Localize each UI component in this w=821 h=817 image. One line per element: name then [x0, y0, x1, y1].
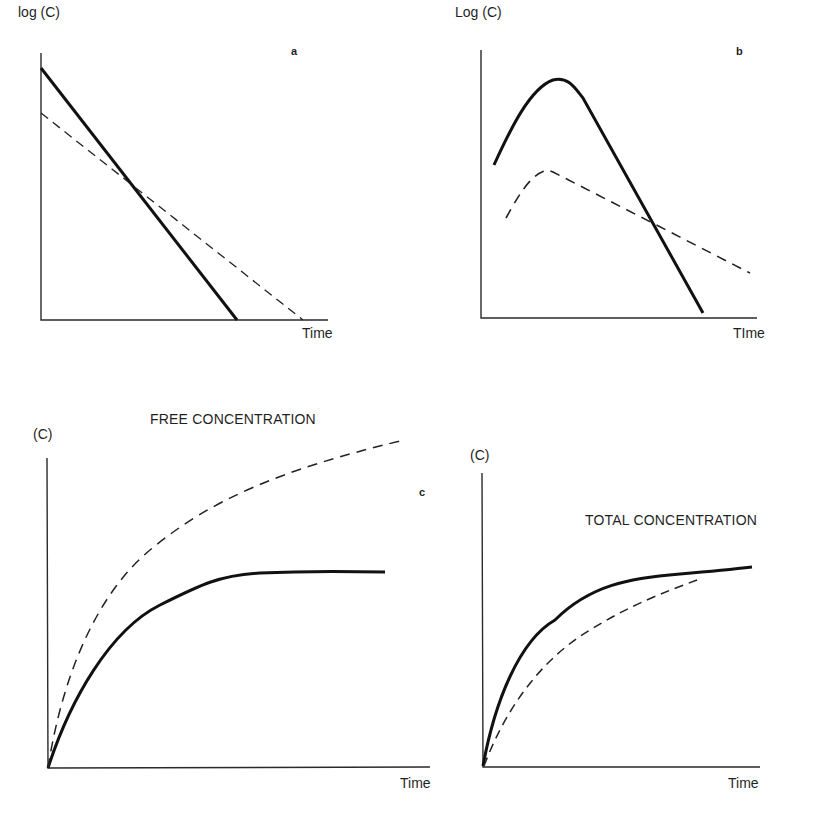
panel-d-xlabel: Time: [728, 776, 759, 790]
panel-b-ylabel: Log (C): [455, 5, 502, 19]
panel-b-axes: [481, 50, 757, 318]
panel-c-letter: c: [419, 487, 425, 498]
panel-c-xlabel: Time: [400, 776, 431, 790]
panel-d-title: TOTAL CONCENTRATION: [585, 513, 757, 527]
panel-a-solid-line: [41, 68, 237, 320]
panel-a-axes: [41, 53, 328, 320]
panel-b: [481, 50, 757, 318]
figure-canvas: [0, 0, 821, 817]
panel-d-ylabel: (C): [470, 448, 489, 462]
panel-d-dashed-curve: [484, 580, 697, 766]
panel-c-title: FREE CONCENTRATION: [150, 412, 316, 426]
panel-a-ylabel: log (C): [18, 5, 60, 19]
panel-d-solid-curve: [483, 567, 752, 766]
panel-a-dashed-line: [41, 113, 303, 320]
panel-a: [41, 53, 328, 320]
panel-c-dashed-curve: [48, 441, 400, 768]
panel-c-ylabel: (C): [33, 427, 52, 441]
panel-b-letter: b: [736, 46, 743, 57]
panel-c-axes: [47, 458, 430, 768]
panel-b-xlabel: TIme: [733, 326, 765, 340]
panel-a-letter: a: [291, 46, 297, 57]
panel-b-dashed-curve: [506, 171, 750, 274]
panel-c-solid-curve: [48, 571, 385, 768]
panel-a-xlabel: Time: [302, 326, 333, 340]
panel-c: [47, 441, 430, 768]
